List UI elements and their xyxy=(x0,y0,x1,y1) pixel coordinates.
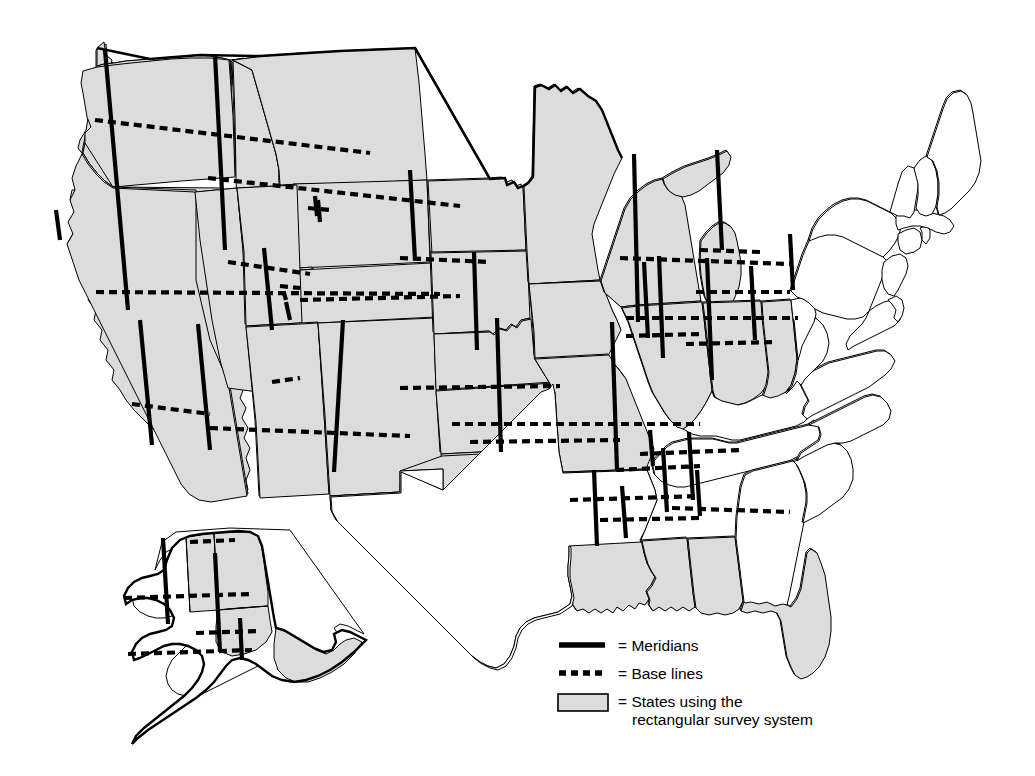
legend-meridian-text: Meridians xyxy=(631,637,698,654)
state-connecticut xyxy=(898,228,922,254)
state-north-dakota-outline xyxy=(428,178,526,254)
state-oregon-outline xyxy=(81,58,235,187)
meridian-washington-short xyxy=(318,200,320,222)
legend-states-swatch xyxy=(558,694,608,711)
legend-meridian-label: = Meridians xyxy=(618,637,699,654)
state-minnesota-outline xyxy=(524,85,622,284)
meridian-black-hills xyxy=(474,252,477,350)
meridian-chickasaw xyxy=(650,430,653,466)
meridian-louisiana xyxy=(594,470,597,546)
meridian-alaska-copper-river xyxy=(240,618,242,660)
state-georgia-outline xyxy=(736,461,807,606)
alaska-shaded-west xyxy=(186,533,218,612)
legend-meridian-equals: = xyxy=(618,637,627,654)
legend-states-label-line2: rectangular survey system xyxy=(632,711,813,728)
alaska-inset-group xyxy=(124,528,366,744)
state-arizona-outline xyxy=(246,323,329,498)
meridian-humboldt xyxy=(56,210,60,240)
legend-states-equals: = xyxy=(618,693,627,710)
us-north-straight xyxy=(415,48,490,179)
legend-baseline-text: Base lines xyxy=(631,665,703,682)
state-louisiana-outline xyxy=(569,541,655,613)
legend-states-text: States using the xyxy=(631,693,742,710)
legend-baseline-equals: = xyxy=(618,665,627,682)
map-canvas: = Meridians = Base lines = States using … xyxy=(0,0,1035,776)
state-wisconsin-outline xyxy=(601,179,701,307)
state-new-jersey xyxy=(882,254,908,296)
survey-system-map-figure: = Meridians = Base lines = States using … xyxy=(0,0,1035,776)
legend-baseline-label: = Base lines xyxy=(618,665,703,682)
meridian-ohio-east xyxy=(790,234,793,290)
state-vermont xyxy=(890,166,918,218)
legend: = Meridians = Base lines = States using … xyxy=(558,637,813,728)
state-alabama-outline xyxy=(688,537,743,615)
legend-states-label: = States using the xyxy=(618,693,743,710)
